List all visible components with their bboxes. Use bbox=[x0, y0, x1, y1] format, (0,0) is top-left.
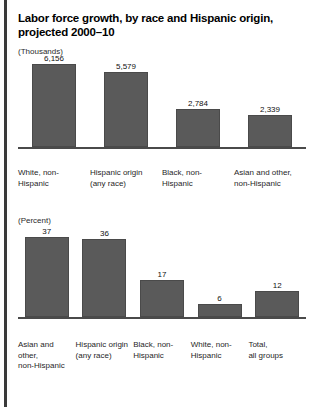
bar bbox=[104, 72, 148, 147]
bar-value-label: 37 bbox=[42, 227, 51, 236]
bar bbox=[32, 64, 76, 147]
category-label: Asian and other, non-Hispanic bbox=[234, 168, 306, 189]
figure-title: Labor force growth, by race and Hispanic… bbox=[18, 11, 303, 39]
category-label: Total, all groups bbox=[248, 340, 306, 372]
bar-value-label: 2,339 bbox=[260, 105, 280, 114]
bar bbox=[248, 115, 292, 147]
category-label: Hispanic origin (any race) bbox=[76, 340, 134, 372]
category-label: Black, non- Hispanic bbox=[133, 340, 191, 372]
bar-value-label: 12 bbox=[273, 281, 282, 290]
bar bbox=[198, 304, 242, 317]
bar-value-label: 6,156 bbox=[44, 54, 64, 63]
bottom-chart-plot-area: 373617612 bbox=[18, 232, 306, 327]
bar-group: 36 bbox=[76, 225, 134, 317]
category-label: White, non- Hispanic bbox=[18, 168, 90, 189]
category-label: Asian and other, non-Hispanic bbox=[18, 340, 76, 372]
bar-group: 37 bbox=[18, 225, 76, 317]
top-bar-chart: 6,1565,5792,7842,339 bbox=[18, 62, 306, 167]
bar-group: 6 bbox=[191, 225, 249, 317]
category-label: Hispanic origin (any race) bbox=[90, 168, 162, 189]
bar bbox=[140, 280, 184, 317]
bar bbox=[176, 109, 220, 147]
bar-value-label: 6 bbox=[217, 294, 221, 303]
bar bbox=[82, 239, 126, 317]
left-edge-rule bbox=[4, 0, 7, 407]
top-chart-axis-line bbox=[18, 147, 306, 149]
bar-group: 2,784 bbox=[162, 51, 234, 147]
bottom-bar-chart: 373617612 bbox=[18, 232, 306, 337]
bar-value-label: 2,784 bbox=[188, 99, 208, 108]
top-chart-category-labels: White, non- HispanicHispanic origin (any… bbox=[18, 168, 306, 189]
bar-value-label: 17 bbox=[158, 270, 167, 279]
figure-page: Labor force growth, by race and Hispanic… bbox=[0, 0, 317, 407]
bar-group: 2,339 bbox=[234, 51, 306, 147]
bottom-chart-category-labels: Asian and other, non-HispanicHispanic or… bbox=[18, 340, 306, 372]
bar bbox=[255, 291, 299, 317]
bar-group: 6,156 bbox=[18, 51, 90, 147]
category-label: White, non- Hispanic bbox=[191, 340, 249, 372]
bar-value-label: 5,579 bbox=[116, 62, 136, 71]
category-label: Black, non- Hispanic bbox=[162, 168, 234, 189]
bar-group: 17 bbox=[133, 225, 191, 317]
bottom-chart-axis-line bbox=[18, 317, 306, 319]
bar-group: 5,579 bbox=[90, 51, 162, 147]
bar bbox=[25, 237, 69, 317]
bar-value-label: 36 bbox=[100, 229, 109, 238]
figure-content: Labor force growth, by race and Hispanic… bbox=[18, 0, 308, 407]
top-chart-plot-area: 6,1565,5792,7842,339 bbox=[18, 62, 306, 157]
bottom-chart-unit-label: (Percent) bbox=[18, 216, 51, 225]
bottom-chart-bars: 373617612 bbox=[18, 225, 306, 317]
bar-group: 12 bbox=[248, 225, 306, 317]
top-chart-bars: 6,1565,5792,7842,339 bbox=[18, 51, 306, 147]
